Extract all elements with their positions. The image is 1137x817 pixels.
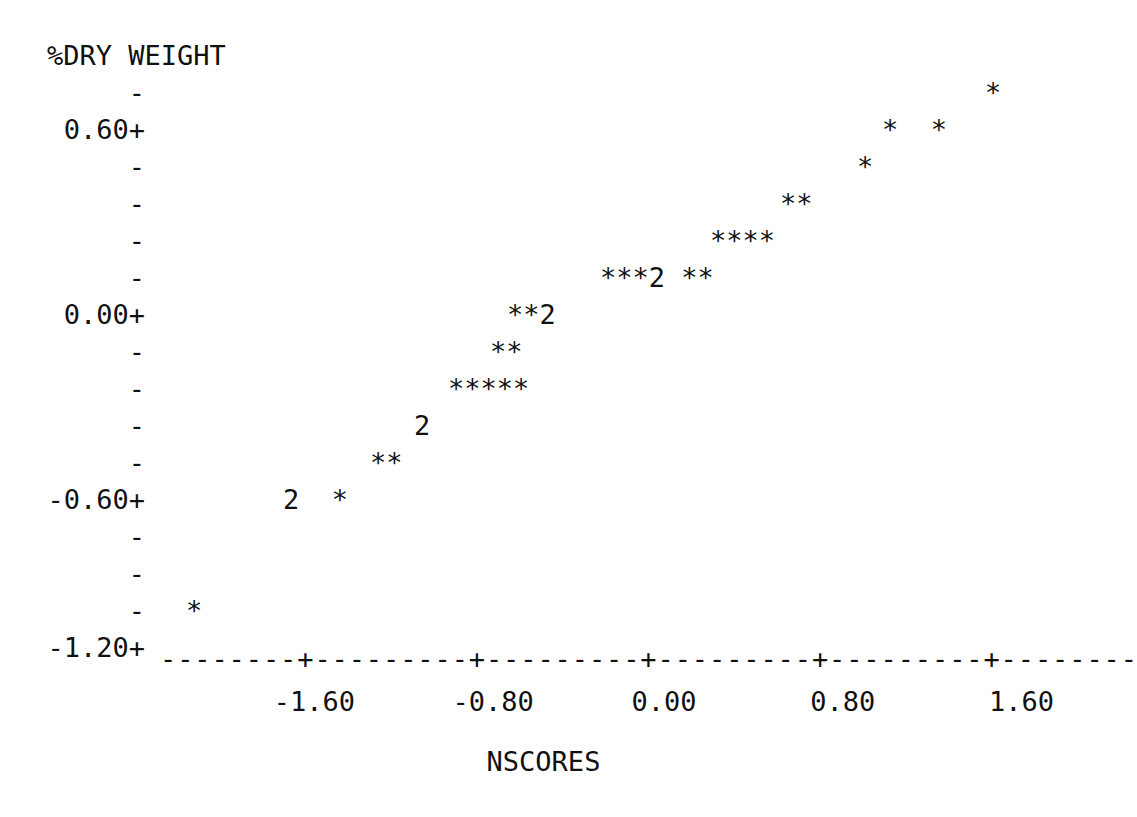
y-axis-minor-tick: - (0, 338, 145, 365)
y-axis-minor-tick: - (0, 190, 145, 217)
data-point-row: **2 (507, 301, 556, 328)
y-axis-tick-label: -0.60+ (0, 486, 145, 513)
data-point-row: * (985, 79, 1001, 106)
y-axis-minor-tick: - (0, 79, 145, 106)
y-axis-tick-label: 0.60+ (0, 116, 145, 143)
data-point-row: ** (370, 449, 403, 476)
y-axis-minor-tick: - (0, 449, 145, 476)
data-point-row: 2 (414, 412, 430, 439)
x-axis-line: --------+---------+---------+---------+-… (160, 645, 1137, 672)
x-axis-label: NSCORES (0, 748, 1087, 775)
data-point-row: * (857, 153, 873, 180)
data-point-row: 2 * (283, 486, 348, 513)
data-point-row: * (186, 597, 202, 624)
y-axis-minor-tick: - (0, 412, 145, 439)
y-axis-minor-tick: - (0, 227, 145, 254)
y-axis-minor-tick: - (0, 375, 145, 402)
y-axis-minor-tick: - (0, 597, 145, 624)
data-point-row: ** (490, 338, 523, 365)
data-point-row: **** (710, 227, 775, 254)
y-axis-tick-label: -1.20+ (0, 634, 145, 661)
data-point-row: ** (780, 190, 813, 217)
y-axis-label: %DRY WEIGHT (47, 42, 226, 69)
y-axis-minor-tick: - (0, 560, 145, 587)
y-axis-tick-label: 0.00+ (0, 301, 145, 328)
y-axis-minor-tick: - (0, 264, 145, 291)
x-axis-tick-labels: -1.60 -0.80 0.00 0.80 1.60 (160, 688, 1054, 715)
data-point-row: * * (882, 116, 947, 143)
data-point-row: ***2 ** (600, 264, 714, 291)
y-axis-minor-tick: - (0, 523, 145, 550)
data-point-row: ***** (448, 375, 529, 402)
y-axis-minor-tick: - (0, 153, 145, 180)
